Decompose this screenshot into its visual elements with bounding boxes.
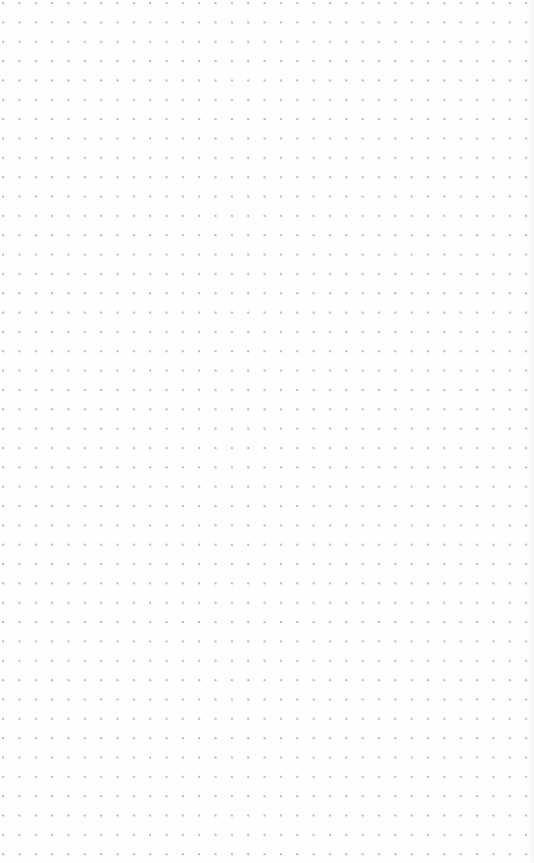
- page-edge-shadow: [528, 0, 534, 863]
- dot-grid-paper: [0, 0, 534, 863]
